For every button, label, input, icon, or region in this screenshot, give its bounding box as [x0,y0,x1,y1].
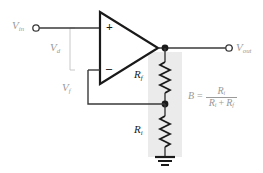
label-v-f: Vf [62,82,71,94]
feedback-ratio-formula: B= Ri Ri+Rf [188,86,237,108]
formula-fraction: Ri Ri+Rf [206,86,237,108]
formula-denominator: Ri+Rf [206,97,237,109]
formula-numerator: Ri [206,86,237,97]
input-terminal-icon [33,25,39,31]
circuit-diagram: Vin Vd Vf Vout + – Rf Ri B= Ri Ri+Rf [0,0,263,173]
label-v-d: Vd [50,42,60,54]
label-rf: Rf [134,69,143,81]
label-ri: Ri [134,124,143,136]
formula-equals: = [194,90,206,101]
output-terminal-icon [226,45,232,51]
opamp-plus-sign: + [106,21,113,33]
vd-bracket [70,28,75,70]
opamp-minus-sign: – [106,62,112,74]
label-v-out: Vout [236,42,251,54]
label-v-in: Vin [12,20,24,32]
